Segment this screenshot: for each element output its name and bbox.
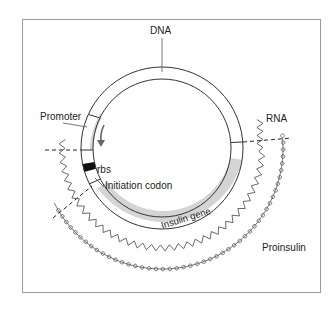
proinsulin-label: Proinsulin (262, 243, 306, 253)
rbs-label: rbs (97, 165, 111, 175)
plasmid-diagram (0, 0, 336, 309)
rna-label: RNA (266, 114, 287, 124)
direction-arrow-icon (97, 125, 105, 147)
plasmid-ring (81, 67, 243, 229)
dna-label: DNA (150, 26, 171, 36)
initiation-codon-label: Initiation codon (105, 181, 172, 191)
promoter-label: Promoter (40, 112, 81, 122)
promoter-pointer (63, 123, 87, 127)
proinsulin-chain (54, 134, 285, 271)
